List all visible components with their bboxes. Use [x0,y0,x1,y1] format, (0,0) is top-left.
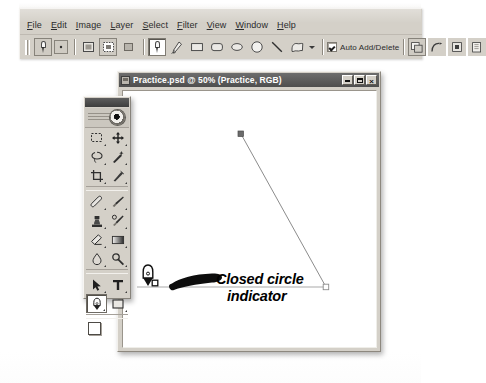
exclude-overlapping-path-areas-button[interactable] [468,38,486,56]
rounded-rectangle-tool-button[interactable] [208,38,226,56]
tool-path-selection[interactable] [86,275,107,294]
toolbox-logo-lines [88,113,110,122]
paths-button[interactable] [99,38,117,56]
foreground-color-swatch[interactable] [88,322,101,335]
current-tool-preset-button[interactable] [34,38,52,56]
menu-view-label: iew [213,20,227,30]
tool-brush[interactable] [107,192,128,211]
pen-tool-icon [39,41,48,53]
anchor-point-top [238,131,244,137]
tool-lasso[interactable] [86,147,107,166]
toolbox-row-7 [86,249,128,268]
menu-image-label: mage [78,20,101,30]
custom-shape-tool-button[interactable] [288,38,306,56]
eraser-icon [90,233,104,247]
add-to-path-area-button[interactable] [408,38,426,56]
line-icon [271,41,283,53]
tool-rectangle-shape[interactable] [107,294,128,313]
path-selection-arrow-icon [90,278,104,292]
shape-layers-button[interactable] [79,38,97,56]
tool-more-corner-icon [104,291,106,293]
toolbox-row-1 [86,128,128,147]
dodge-icon [111,252,125,266]
line-tool-button[interactable] [268,38,286,56]
toolbox-title-bar[interactable] [85,98,129,107]
tool-more-corner-icon [125,144,127,146]
minimize-button[interactable] [342,75,353,85]
tool-more-corner-icon [104,163,106,165]
tool-more-corner-icon [104,208,106,210]
pen-tool-button[interactable] [148,38,166,56]
tool-more-corner-icon [125,227,127,229]
color-swatches[interactable] [88,322,110,342]
tool-marquee[interactable] [86,128,107,147]
document-icon [121,76,130,85]
close-button[interactable]: × [366,75,377,85]
shape-layers-icon [83,42,94,52]
tool-clone-stamp[interactable] [86,211,107,230]
tool-move[interactable] [107,128,128,147]
ellipse-tool-button[interactable] [228,38,246,56]
clone-stamp-icon [90,214,104,228]
menu-help[interactable]: Help [277,20,296,31]
menu-edit[interactable]: Edit [51,20,67,31]
menu-select[interactable]: Select [142,20,168,31]
tool-slice[interactable] [107,166,128,185]
shape-options-chevron-down-icon[interactable] [309,46,315,49]
menu-window[interactable]: Window [235,20,268,31]
toolbox-palette [83,96,131,299]
options-separator-1 [74,39,75,55]
toolbox-row-3 [86,166,128,185]
freeform-pen-tool-button[interactable] [168,38,186,56]
tool-dodge[interactable] [107,249,128,268]
tool-history-brush[interactable] [107,211,128,230]
tool-type[interactable] [107,275,128,294]
tool-pen[interactable] [86,294,107,313]
subtract-from-path-area-button[interactable] [428,38,446,56]
auto-add-delete-checkbox[interactable] [327,42,337,52]
tool-more-corner-icon [125,163,127,165]
intersect-path-areas-button[interactable] [448,38,466,56]
menu-bar: File Edit Image Layer Select Filter View… [20,18,422,33]
tool-blur[interactable] [86,249,107,268]
tool-healing-brush[interactable] [86,192,107,211]
menu-bar-divider [20,34,422,35]
tool-preset-picker-button[interactable] [54,40,68,54]
rectangle-tool-button[interactable] [188,38,206,56]
callout-line-1: Closed circle [216,271,304,287]
paths-icon [103,42,114,52]
tool-eraser[interactable] [86,230,107,249]
menu-filter-label: ilter [183,20,198,30]
menu-help-accel: H [277,20,284,30]
marquee-icon [90,131,104,145]
brush-icon [111,195,125,209]
document-title-bar[interactable]: Practice.psd @ 50% (Practice, RGB) × [119,73,379,87]
application-window-frame: File Edit Image Layer Select Filter View… [19,8,422,59]
tool-more-corner-icon [104,246,106,248]
close-icon: × [369,78,374,85]
intersect-path-areas-icon [452,42,462,52]
exclude-overlapping-path-areas-icon [472,42,483,53]
tool-more-corner-icon [125,208,127,210]
toolbox-tool-grid [86,128,128,296]
menu-layer[interactable]: Layer [110,20,133,31]
options-bar-grip[interactable] [25,40,30,55]
maximize-button[interactable] [354,75,365,85]
document-canvas[interactable] [122,90,377,348]
menu-image[interactable]: Image [76,20,102,31]
lasso-icon [90,150,104,164]
tool-more-corner-icon [104,182,106,184]
toolbox-row-colors [86,320,128,339]
tool-crop[interactable] [86,166,107,185]
tool-magic-wand[interactable] [107,147,128,166]
tool-gradient[interactable] [107,230,128,249]
menu-layer-label: ayer [115,20,133,30]
menu-file[interactable]: File [27,20,42,31]
menu-filter[interactable]: Filter [177,20,198,31]
fill-pixels-button[interactable] [119,38,137,56]
toolbox-eye-icon [110,110,125,125]
circle-tool-button[interactable] [248,38,266,56]
window-controls: × [342,75,377,85]
menu-view[interactable]: View [207,20,227,31]
toolbox-row-8 [86,275,128,294]
